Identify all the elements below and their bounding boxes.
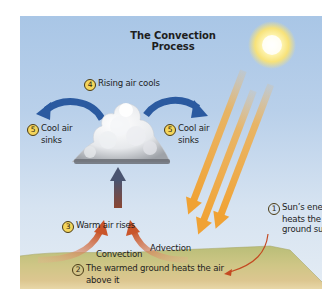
step-4-marker: 4 (84, 79, 96, 91)
diagram-title: The Convection Process (108, 30, 238, 52)
step-3-marker: 3 (62, 221, 74, 233)
step-1-label: 1Sun’s energy heats the ground surface (268, 203, 322, 234)
step-5-right-marker: 5 (164, 124, 176, 136)
step-4-text: Rising air cools (98, 78, 160, 88)
step-1-marker: 1 (268, 203, 280, 215)
step-1-text-line3: ground surface (268, 225, 322, 235)
step-2-marker: 2 (72, 264, 84, 276)
step-2-text-line1: The warmed ground heats the air (86, 263, 224, 273)
convection-diagram: The Convection Process 4Rising air cools… (20, 16, 322, 289)
step-2-label: 2The warmed ground heats the air above i… (72, 264, 224, 286)
rising-air-arrow-icon (110, 167, 126, 208)
step-5-right-text-line2: sinks (164, 136, 209, 146)
step-5-right-label: 5Cool air sinks (164, 124, 209, 146)
advection-label: Advection (150, 244, 191, 254)
sun-rays-icon (180, 68, 278, 238)
cool-air-left-arrow-icon (36, 102, 102, 120)
step-5-left-text-line1: Cool air (41, 123, 72, 133)
sun-icon (248, 21, 296, 69)
step-5-left-marker: 5 (27, 124, 39, 136)
step-2-text-line2: above it (72, 276, 224, 286)
cloud-icon (72, 103, 170, 164)
step-5-left-text-line2: sinks (27, 136, 72, 146)
step-1-text-line1: Sun’s energy (282, 202, 322, 212)
step-3-label: 3Warm air rises (62, 221, 135, 233)
step-3-text: Warm air rises (76, 220, 135, 230)
step-5-right-text-line1: Cool air (178, 123, 209, 133)
cool-air-right-arrow-icon (146, 100, 208, 118)
convection-label: Convection (96, 250, 142, 260)
step-5-left-label: 5Cool air sinks (27, 124, 72, 146)
step-4-label: 4Rising air cools (84, 79, 160, 91)
